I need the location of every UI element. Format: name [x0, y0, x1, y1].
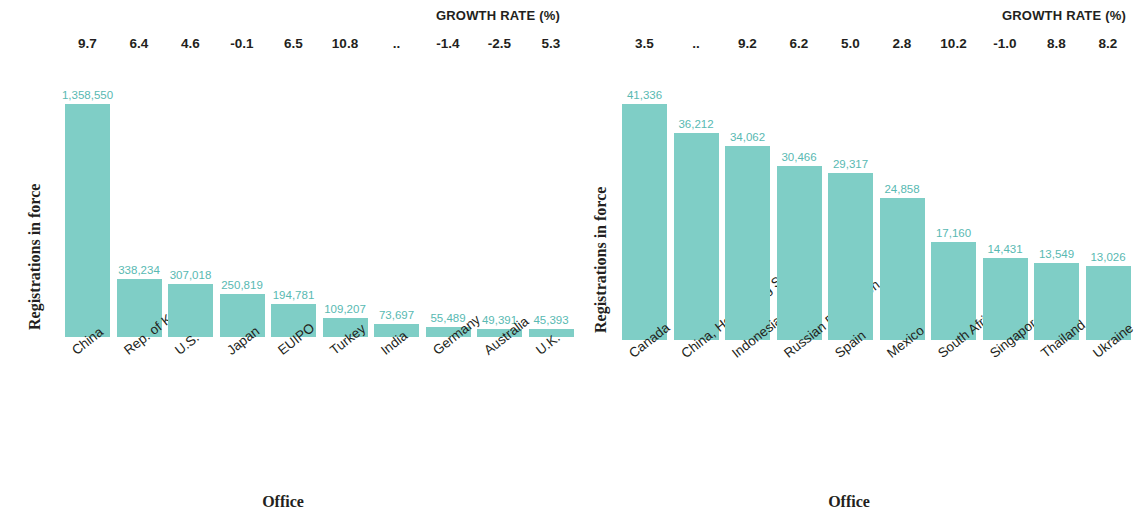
bar	[674, 133, 719, 340]
bar-value-label: 41,336	[608, 89, 681, 101]
bar	[880, 198, 925, 340]
bar	[725, 146, 770, 340]
bar-value-label: 17,160	[917, 227, 990, 239]
bar	[622, 104, 667, 340]
bar	[168, 284, 213, 337]
plot-area-right: 41,336Canada36,212China, Hong Kong SAR*3…	[566, 0, 1132, 519]
bar-value-label: 1,358,550	[51, 89, 124, 101]
plot-area-left: 1,358,550China338,234Rep. of Korea307,01…	[0, 0, 566, 519]
bar-value-label: 24,858	[866, 183, 939, 195]
bar	[65, 104, 110, 337]
bar-value-label: 29,317	[814, 158, 887, 170]
bar	[777, 166, 822, 340]
bar-value-label: 13,026	[1072, 251, 1138, 263]
bar	[828, 173, 873, 340]
x-axis-title-left: Office	[0, 493, 566, 511]
chart-panel-right: GROWTH RATE (%) 3.5..9.26.25.02.810.2-1.…	[566, 0, 1132, 519]
chart-panel-left: GROWTH RATE (%) 9.76.44.6-0.16.510.8..-1…	[0, 0, 566, 519]
x-axis-title-right: Office	[566, 493, 1132, 511]
bar-value-label: 36,212	[660, 118, 733, 130]
bar-value-label: 194,781	[257, 289, 330, 301]
bar-value-label: 34,062	[711, 131, 784, 143]
